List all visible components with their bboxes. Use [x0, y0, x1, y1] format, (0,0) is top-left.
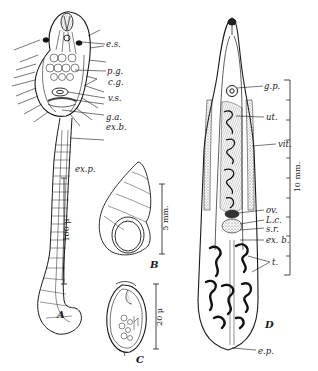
label-uterus: ut.: [266, 113, 278, 122]
label-genital-pore: g.p.: [264, 82, 280, 91]
label-seminal-receptacle: s.r.: [266, 225, 279, 234]
label-excretory-pore-d: e.p.: [258, 347, 274, 356]
figure-letter-a: A: [57, 310, 65, 320]
scale-bar-a-label: 100 μ: [63, 218, 71, 241]
label-cystogenous-glands: c.g.: [108, 78, 124, 87]
figure-letter-d: D: [265, 320, 274, 330]
label-testes: t.: [272, 258, 278, 267]
figure-b-shell: [99, 162, 165, 255]
figure-letter-b: B: [150, 260, 158, 270]
scale-bar-c-label: 20 μ: [156, 308, 164, 326]
figure-letter-c: C: [136, 355, 144, 365]
scale-bar-d-label: 10 mm.: [294, 162, 302, 192]
label-excretory-bladder-d: ex. b.: [266, 236, 289, 245]
label-genital-anlage: g.a.: [106, 113, 122, 122]
label-excretory-pore-a: ex.p.: [75, 165, 96, 174]
label-excretory-bladder-a: ex.b.: [106, 123, 127, 132]
figure-c-cyst: [107, 282, 159, 356]
label-vitellaria: vit.: [278, 140, 292, 149]
label-ventral-sucker: v.s.: [108, 94, 122, 103]
label-eye-spot: e.s.: [106, 40, 121, 49]
label-penetration-glands: p.g.: [107, 67, 123, 76]
scale-bar-b-label: 5 mm.: [162, 205, 170, 230]
figure-d-adult: [198, 18, 290, 350]
label-ovary: ov.: [266, 206, 278, 215]
